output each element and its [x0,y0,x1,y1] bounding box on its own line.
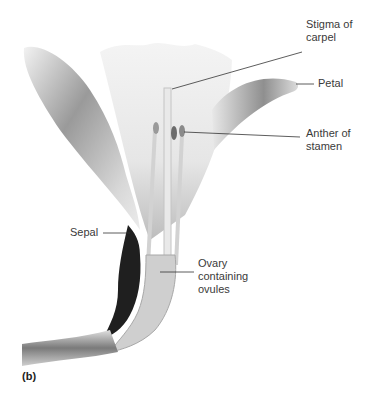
stigma-label: Stigma of carpel [306,18,352,44]
panel-label: (b) [22,370,36,382]
sepal-label-line: Sepal [70,226,98,239]
stigma-label-line: Stigma of [306,18,352,31]
anther [153,122,159,134]
petal-label: Petal [318,77,343,90]
anther [179,125,185,137]
anther-label-line: stamen [306,140,351,153]
ovary-label-line: containing [198,270,248,283]
stigma-label-line: carpel [306,31,352,44]
anther-label-line: Anther of [306,127,351,140]
ovary-label-line: Ovary [198,257,248,270]
flower-illustration [0,0,367,402]
ovary-label-line: ovules [198,283,248,296]
anther-label: Anther of stamen [306,127,351,153]
ovary-label: Ovary containing ovules [198,257,248,296]
sepal-label: Sepal [70,226,98,239]
stem [22,330,118,366]
anther [171,126,177,140]
style [164,88,171,268]
petal-label-line: Petal [318,77,343,90]
